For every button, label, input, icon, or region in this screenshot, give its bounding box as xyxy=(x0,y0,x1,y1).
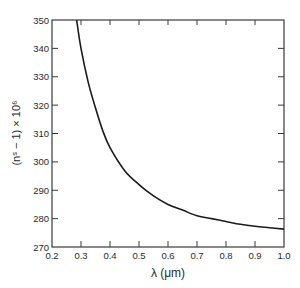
x-axis-ticks xyxy=(81,20,255,247)
x-tick-label: 0.5 xyxy=(132,250,145,261)
y-tick-label: 350 xyxy=(33,15,49,26)
y-axis-label: (nˢ − 1) × 10⁶ xyxy=(10,100,22,165)
x-tick-label: 0.4 xyxy=(103,250,116,261)
y-tick-label: 320 xyxy=(33,100,49,111)
x-tick-label: 0.9 xyxy=(248,250,261,261)
x-tick-label: 0.6 xyxy=(161,250,174,261)
y-tick-label: 280 xyxy=(33,213,49,224)
plot-area-border xyxy=(52,20,284,247)
y-tick-label: 310 xyxy=(33,128,49,139)
y-tick-label: 300 xyxy=(33,156,49,167)
x-tick-label: 0.3 xyxy=(74,250,87,261)
y-tick-label: 340 xyxy=(33,43,49,54)
data-series-line xyxy=(77,20,284,229)
x-axis-label: λ (μm) xyxy=(151,266,185,280)
x-tick-label: 0.8 xyxy=(219,250,232,261)
y-tick-label: 330 xyxy=(33,71,49,82)
x-axis-tick-labels: 0.20.30.40.50.60.70.80.91.0 xyxy=(45,250,290,261)
x-tick-label: 1.0 xyxy=(277,250,290,261)
plot-frame xyxy=(52,20,284,247)
y-tick-label: 270 xyxy=(33,242,49,253)
refractivity-chart: 0.20.30.40.50.60.70.80.91.0 270280290300… xyxy=(0,0,300,288)
y-tick-label: 290 xyxy=(33,185,49,196)
y-axis-tick-labels: 270280290300310320330340350 xyxy=(33,15,49,253)
x-tick-label: 0.7 xyxy=(190,250,203,261)
